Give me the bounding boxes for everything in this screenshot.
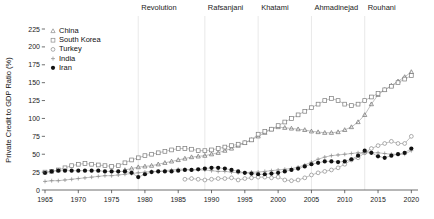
data-point <box>343 159 347 163</box>
legend-label-iran: Iran <box>59 63 72 72</box>
y-tick-label: 0 <box>36 187 40 194</box>
data-point <box>136 156 140 160</box>
y-tick-label: 75 <box>32 133 40 140</box>
data-point <box>63 169 67 173</box>
era-label: Rafsanjani <box>208 3 244 12</box>
data-point <box>103 174 107 178</box>
data-point <box>289 168 293 172</box>
data-point <box>51 66 55 70</box>
x-tick-label: 1995 <box>237 196 253 203</box>
x-tick-label: 2020 <box>404 196 420 203</box>
data-point <box>136 175 140 179</box>
data-point <box>236 178 240 182</box>
data-point <box>369 151 373 155</box>
data-point <box>236 142 240 146</box>
data-point <box>50 169 54 173</box>
chart-container: 0255075100125150175200225 19651970197519… <box>0 0 434 219</box>
data-point <box>383 152 387 156</box>
x-tick-label: 2010 <box>337 196 353 203</box>
x-tick-label: 1990 <box>204 196 220 203</box>
data-point <box>136 171 140 175</box>
data-point <box>203 178 207 182</box>
data-point <box>90 162 94 166</box>
data-point <box>196 177 200 181</box>
data-point <box>96 169 100 173</box>
data-point <box>176 147 180 151</box>
era-label: Ahmadinejad <box>314 3 358 12</box>
data-point <box>123 169 127 173</box>
data-point <box>156 151 160 155</box>
data-point <box>269 171 273 175</box>
era-gridlines <box>138 16 364 190</box>
y-tick-labels: 0255075100125150175200225 <box>28 26 40 194</box>
series-group <box>43 70 414 184</box>
data-point <box>143 154 147 158</box>
data-point <box>310 106 314 110</box>
data-point <box>203 149 207 153</box>
era-labels: RevolutionRafsanjaniKhatamiAhmadinejadRo… <box>141 3 396 12</box>
data-point <box>83 162 87 166</box>
data-point <box>343 102 347 106</box>
data-point <box>223 145 227 149</box>
data-point <box>50 179 54 183</box>
data-point <box>409 146 413 150</box>
data-point <box>56 179 60 183</box>
data-point <box>156 169 160 173</box>
era-label: Khatami <box>261 3 289 12</box>
data-point <box>310 173 314 177</box>
data-point <box>250 138 254 142</box>
data-point <box>270 176 274 180</box>
data-point <box>163 149 167 153</box>
data-point <box>303 164 307 168</box>
data-point <box>90 169 94 173</box>
x-tick-label: 1980 <box>137 196 153 203</box>
data-point <box>210 177 214 181</box>
data-point <box>363 99 367 103</box>
data-point <box>43 171 47 175</box>
data-point <box>216 147 220 151</box>
data-point <box>349 152 353 156</box>
data-point <box>130 158 134 162</box>
credit-gdp-line-chart: 0255075100125150175200225 19651970197519… <box>0 0 434 219</box>
data-point <box>229 168 233 172</box>
data-point <box>323 155 327 159</box>
data-point <box>110 164 114 168</box>
data-point <box>51 38 55 42</box>
data-point <box>190 177 194 181</box>
data-point <box>409 74 413 78</box>
data-point <box>383 88 387 92</box>
data-point <box>250 176 254 180</box>
data-point <box>103 164 107 168</box>
data-point <box>389 154 393 158</box>
data-point <box>51 48 55 52</box>
data-point <box>290 179 294 183</box>
data-point <box>256 172 260 176</box>
data-point <box>116 169 120 173</box>
data-point <box>209 166 213 170</box>
data-point <box>76 177 80 181</box>
data-point <box>129 171 133 175</box>
data-point <box>243 141 247 145</box>
data-point <box>376 144 380 148</box>
series-turkey <box>183 134 413 182</box>
data-point <box>376 92 380 96</box>
data-point <box>276 171 280 175</box>
data-point <box>43 179 47 183</box>
data-point <box>349 104 353 108</box>
y-tick-label: 225 <box>28 26 40 33</box>
y-tick-label: 150 <box>28 79 40 86</box>
data-point <box>123 161 127 165</box>
data-point <box>103 169 107 173</box>
data-point <box>396 81 400 85</box>
series-line <box>125 72 411 170</box>
legend-label-china: China <box>59 26 79 35</box>
data-point <box>356 154 360 158</box>
data-point <box>189 168 193 172</box>
data-point <box>363 149 367 153</box>
data-point <box>389 139 393 143</box>
x-tick-label: 1975 <box>104 196 120 203</box>
data-point <box>223 177 227 181</box>
data-point <box>389 84 393 88</box>
data-point <box>409 70 413 74</box>
data-point <box>243 171 247 175</box>
